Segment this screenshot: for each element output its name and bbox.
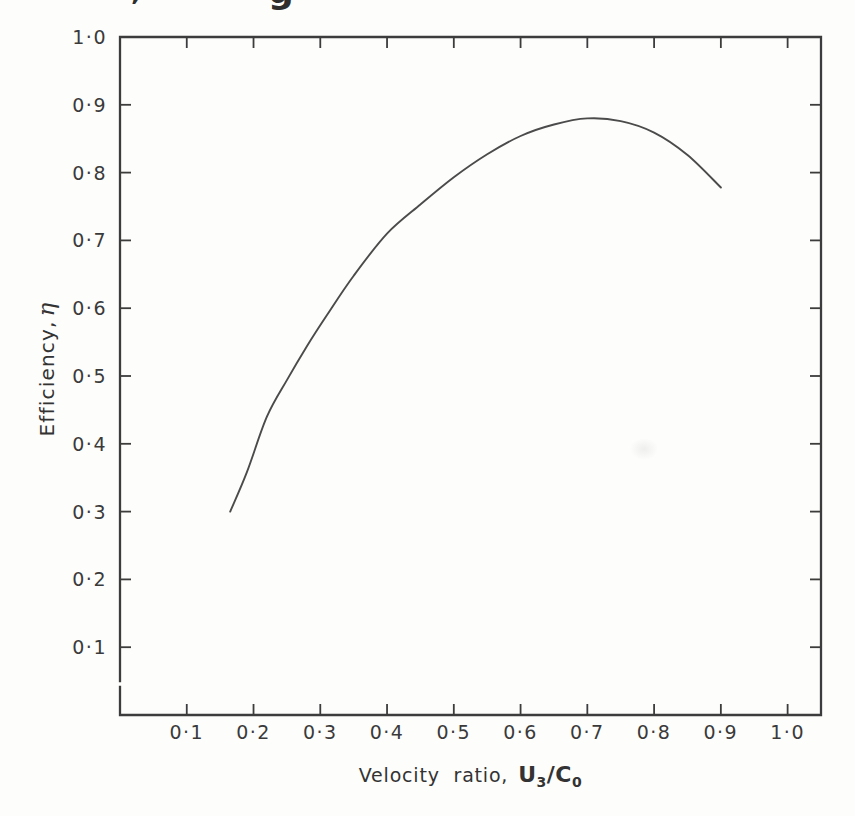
- y-tick-label: 0·9: [72, 94, 107, 116]
- x-axis-title-text: Velocity ratio,: [359, 764, 508, 786]
- y-tick-label: 1·0: [72, 26, 107, 48]
- x-tick-label: 0·6: [503, 721, 538, 743]
- y-axis-title: Efficiency,η: [33, 287, 59, 451]
- y-tick-label: 0·7: [72, 229, 107, 251]
- x-tick-label: 0·4: [370, 721, 405, 743]
- y-tick-label: 0·5: [72, 365, 107, 387]
- x-tick-label: 0·8: [637, 721, 672, 743]
- scanned-figure: , g 1·00·90·80·70·60·50·40·30·20·1 0·10·…: [0, 0, 855, 816]
- plot-canvas: [0, 0, 855, 816]
- y-axis-title-text: Efficiency,: [35, 320, 59, 436]
- x-tick-label: 0·1: [169, 721, 204, 743]
- x-tick-label: 1·0: [770, 721, 805, 743]
- y-tick-label: 0·6: [72, 297, 107, 319]
- y-tick-label: 0·4: [72, 433, 107, 455]
- x-tick-label: 0·3: [303, 721, 338, 743]
- y-tick-label: 0·3: [72, 501, 107, 523]
- x-tick-label: 0·2: [236, 721, 271, 743]
- x-tick-label: 0·5: [436, 721, 471, 743]
- scan-smudge: [630, 438, 658, 460]
- y-tick-label: 0·8: [72, 162, 107, 184]
- y-tick-label: 0·1: [72, 636, 107, 658]
- eta-symbol: η: [33, 301, 59, 316]
- x-axis-title: Velocity ratio,U3/C0: [120, 762, 821, 790]
- x-tick-label: 0·9: [703, 721, 738, 743]
- x-tick-label: 0·7: [570, 721, 605, 743]
- axis-ticks: [120, 37, 821, 715]
- y-tick-label: 0·2: [72, 568, 107, 590]
- velocity-ratio-symbol: U3/C0: [518, 762, 582, 787]
- axes-frame: [120, 37, 821, 715]
